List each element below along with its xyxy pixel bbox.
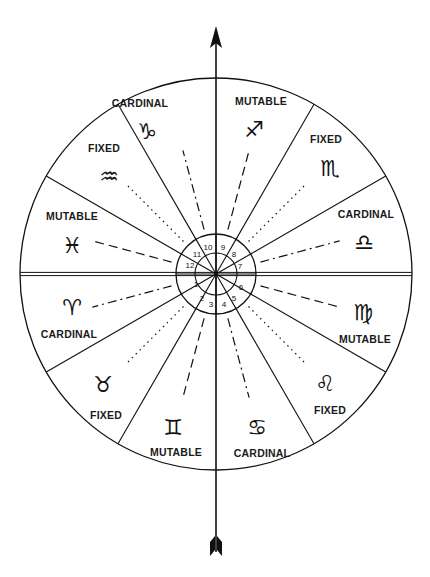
modality-ray-fixed: [125, 307, 183, 365]
center-dot: [214, 272, 218, 276]
sign-pisces: MUTABLE♓: [46, 210, 98, 258]
house-number: 2: [200, 294, 205, 303]
modality-ray-fixed: [125, 183, 183, 241]
house-number: 12: [186, 261, 195, 270]
modality-ray-mutable: [92, 241, 171, 262]
modality-label: MUTABLE: [339, 333, 391, 345]
sign-divider-line: [118, 104, 196, 239]
house-number: 10: [204, 243, 213, 252]
modality-label: CARDINAL: [112, 97, 169, 109]
sign-aries: CARDINAL♈: [41, 295, 98, 340]
cancer-icon: ♋: [247, 415, 267, 440]
modality-ray-mutable: [260, 286, 339, 307]
house-number: 4: [222, 300, 227, 309]
modality-ray-cardinal: [228, 318, 249, 397]
sign-aquarius: FIXED♒: [88, 142, 120, 189]
sign-cancer: CARDINAL♋: [234, 415, 291, 459]
scorpio-icon: ♏: [320, 156, 340, 181]
modality-label: FIXED: [90, 409, 122, 421]
arrow-fletching-left-icon: [210, 536, 215, 556]
house-number: 1: [194, 280, 199, 289]
house-number: 9: [221, 243, 226, 252]
house-number: 7: [238, 262, 243, 271]
modality-ray-fixed: [249, 307, 307, 365]
aquarius-icon: ♒: [99, 164, 119, 189]
sign-scorpio: FIXED♏: [310, 133, 342, 181]
house-number: 3: [209, 300, 214, 309]
modality-ray-cardinal: [183, 150, 204, 229]
house-number: 11: [193, 250, 202, 259]
sign-leo: FIXED♌: [314, 371, 346, 416]
house-number: 5: [232, 294, 237, 303]
sign-virgo: MUTABLE♍: [339, 300, 391, 345]
sign-gemini: MUTABLE♊: [150, 415, 202, 458]
leo-icon: ♌: [315, 371, 335, 396]
modality-ray-mutable: [228, 150, 249, 229]
modality-ray-cardinal: [92, 286, 171, 307]
sagittarius-icon: ♐: [244, 117, 264, 142]
sign-divider-line: [118, 309, 196, 444]
modality-label: CARDINAL: [41, 328, 98, 340]
sign-sagittarius: MUTABLE♐: [235, 95, 287, 142]
meridian-arrow: [210, 26, 222, 556]
sign-capricorn: CARDINAL♑: [112, 97, 169, 144]
pisces-icon: ♓: [62, 233, 82, 258]
modality-label: MUTABLE: [46, 210, 98, 222]
modality-label: CARDINAL: [234, 447, 291, 459]
house-number: 6: [239, 283, 244, 292]
modality-ray-cardinal: [260, 241, 339, 262]
gemini-icon: ♊: [163, 415, 183, 440]
virgo-icon: ♍: [353, 300, 373, 325]
taurus-icon: ♉: [93, 372, 113, 397]
capricorn-icon: ♑: [137, 119, 157, 144]
house-number: 8: [232, 250, 237, 259]
aries-icon: ♈: [62, 295, 82, 320]
sign-libra: CARDINAL♎: [338, 208, 395, 255]
libra-icon: ♎: [354, 230, 374, 255]
modality-label: MUTABLE: [150, 446, 202, 458]
modality-label: MUTABLE: [235, 95, 287, 107]
modality-ray-mutable: [183, 318, 204, 397]
modality-label: FIXED: [310, 133, 342, 145]
zodiac-wheel-diagram: 123456789101112 CARDINAL♑MUTABLE♐FIXED♏C…: [0, 0, 430, 577]
modality-label: CARDINAL: [338, 208, 395, 220]
modality-label: FIXED: [88, 142, 120, 154]
arrow-fletching-right-icon: [217, 536, 222, 556]
modality-ray-fixed: [249, 183, 307, 241]
modality-label: FIXED: [314, 404, 346, 416]
sign-taurus: FIXED♉: [90, 372, 122, 421]
